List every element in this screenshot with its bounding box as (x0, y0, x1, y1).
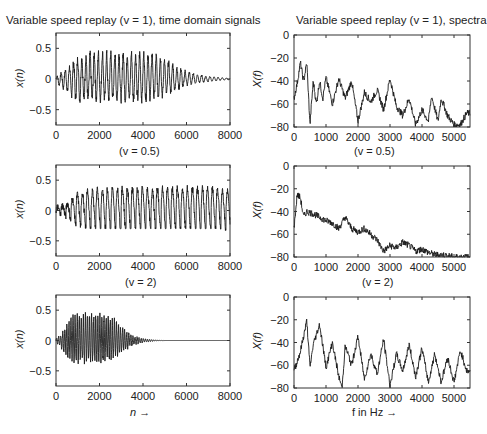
x-tick-label: 8000 (218, 390, 242, 402)
x-tick-label: 0 (53, 390, 59, 402)
x-tick-label: 3000 (378, 261, 402, 273)
y-tick-label: 0 (283, 291, 289, 303)
x-tick-label: 2000 (87, 260, 111, 272)
y-tick-label: 0 (45, 205, 51, 217)
y-tick-label: −0.5 (29, 365, 51, 377)
x-tick-label: 0 (291, 392, 297, 404)
y-tick-label: −0.5 (29, 235, 51, 247)
x-tick-label: 8000 (218, 260, 242, 272)
y-tick-label: −20 (270, 52, 289, 64)
x-tick-label: 5000 (442, 392, 466, 404)
y-tick-label: −80 (270, 251, 289, 263)
y-tick-label: 0.5 (36, 174, 51, 186)
x-tick-label: 0 (291, 131, 297, 143)
x-tick-label: 2000 (346, 261, 370, 273)
x-tick-label: 1000 (314, 392, 338, 404)
x-tick-label: 3000 (378, 131, 402, 143)
y-tick-label: −80 (270, 382, 289, 394)
x-tick-label: 1000 (314, 261, 338, 273)
x-tick-label: 2000 (346, 131, 370, 143)
plot-1: 02000400060008000−0.500.5 (29, 33, 242, 141)
plot-2: 010002000300040005000−80−60−40−200 (270, 29, 470, 143)
data-line (56, 185, 230, 230)
data-line (56, 50, 230, 103)
plot-frame (294, 297, 470, 388)
y-tick-label: 0 (45, 335, 51, 347)
x-tick-label: 5000 (442, 131, 466, 143)
y-tick-label: −60 (270, 359, 289, 371)
x-tick-label: 4000 (410, 131, 434, 143)
x-tick-label: 8000 (218, 129, 242, 141)
x-tick-label: 4000 (410, 261, 434, 273)
plot-frame (294, 166, 470, 257)
y-tick-label: −60 (270, 228, 289, 240)
y-tick-label: −20 (270, 183, 289, 195)
y-tick-label: 0 (45, 73, 51, 85)
y-tick-label: 0 (283, 29, 289, 41)
y-tick-label: 0 (283, 160, 289, 172)
x-tick-label: 0 (53, 260, 59, 272)
x-tick-label: 1000 (314, 131, 338, 143)
x-tick-label: 6000 (174, 390, 198, 402)
plot-frame (294, 35, 470, 127)
data-line (294, 61, 470, 127)
x-tick-label: 6000 (174, 260, 198, 272)
x-tick-label: 4000 (131, 260, 155, 272)
y-tick-label: 0.5 (36, 304, 51, 316)
y-tick-label: 0.5 (36, 42, 51, 54)
plot-6: 010002000300040005000−80−60−40−200 (270, 291, 470, 404)
plot-3: 02000400060008000−0.500.5 (29, 165, 242, 272)
y-tick-label: −40 (270, 206, 289, 218)
x-tick-label: 2000 (346, 392, 370, 404)
x-tick-label: 0 (291, 261, 297, 273)
data-line (56, 312, 230, 364)
x-tick-label: 5000 (442, 261, 466, 273)
y-tick-label: −60 (270, 98, 289, 110)
y-tick-label: −0.5 (29, 104, 51, 116)
y-tick-label: −80 (270, 121, 289, 133)
x-tick-label: 3000 (378, 392, 402, 404)
x-tick-label: 4000 (410, 392, 434, 404)
x-tick-label: 6000 (174, 129, 198, 141)
plot-5: 02000400060008000−0.500.5 (29, 295, 242, 402)
plot-4: 010002000300040005000−80−60−40−200 (270, 160, 470, 273)
y-tick-label: −40 (270, 337, 289, 349)
data-line (294, 319, 470, 388)
data-line (294, 193, 470, 257)
x-tick-label: 2000 (87, 390, 111, 402)
x-tick-label: 4000 (131, 390, 155, 402)
y-tick-label: −40 (270, 75, 289, 87)
x-tick-label: 2000 (87, 129, 111, 141)
x-tick-label: 0 (53, 129, 59, 141)
x-tick-label: 4000 (131, 129, 155, 141)
y-tick-label: −20 (270, 314, 289, 326)
